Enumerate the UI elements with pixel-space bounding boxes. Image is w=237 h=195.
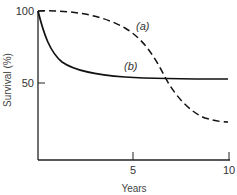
curve-a-label: (a) [136,20,150,32]
x-tick-label-5: 5 [130,164,136,176]
curve-b-label: (b) [124,60,138,72]
x-axis-title: Years [121,183,146,194]
survival-chart: 100 50 5 10 Years Survival (%) (a) (b) [0,0,237,195]
x-tick-label-10: 10 [223,164,235,176]
y-axis-title: Survival (%) [2,53,13,107]
y-tick-label-50: 50 [22,77,34,89]
y-tick-label-100: 100 [16,5,34,17]
